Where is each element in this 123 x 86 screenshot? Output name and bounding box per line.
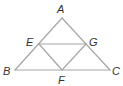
segment-gf	[62, 44, 86, 70]
label-f: F	[58, 74, 66, 86]
triangle-diagram: A B C E G F	[0, 0, 123, 86]
label-b: B	[3, 65, 10, 77]
segment-ef	[39, 44, 62, 70]
label-g: G	[89, 36, 98, 48]
label-c: C	[112, 65, 120, 77]
label-e: E	[26, 36, 34, 48]
label-a: A	[56, 3, 64, 15]
